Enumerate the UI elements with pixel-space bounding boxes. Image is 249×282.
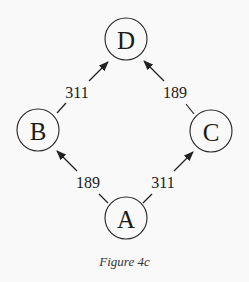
node-d-label: D: [117, 27, 135, 54]
node-b-label: B: [30, 118, 47, 145]
edge-a-to-c: 311: [143, 152, 193, 203]
edge-weight-a-c: 311: [151, 174, 174, 191]
edge-b-to-d-arrow-icon: [89, 62, 108, 81]
edge-weight-a-b: 189: [76, 174, 100, 191]
edge-weight-b-d: 311: [65, 84, 88, 101]
edge-a-to-c-tail: [143, 194, 152, 203]
edge-b-to-d: 311: [57, 62, 108, 113]
node-a-label: A: [117, 206, 135, 233]
node-c: C: [190, 110, 232, 152]
node-b: B: [17, 109, 59, 151]
node-c-label: C: [203, 119, 220, 146]
edge-a-to-b: 189: [57, 151, 108, 203]
node-d: D: [105, 18, 147, 60]
graph-diagram: 311 189 189 311 D B C A: [0, 0, 249, 282]
edge-b-to-d-tail: [57, 103, 66, 113]
figure-caption: Figure 4c: [0, 254, 249, 270]
edge-c-to-d-arrow-icon: [144, 61, 164, 81]
edge-a-to-c-arrow-icon: [174, 152, 193, 171]
edge-c-to-d-tail: [186, 104, 194, 114]
edge-a-to-b-tail: [99, 194, 108, 203]
edge-weight-c-d: 189: [163, 84, 187, 101]
edge-a-to-b-arrow-icon: [57, 151, 77, 171]
node-a: A: [105, 197, 147, 239]
edge-c-to-d: 189: [144, 61, 194, 114]
